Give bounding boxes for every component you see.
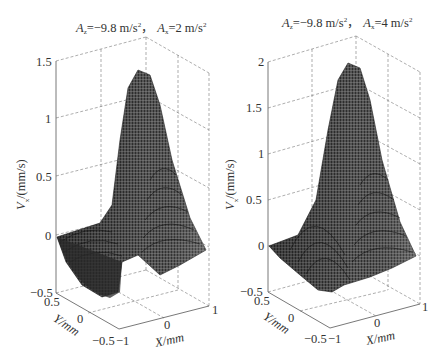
ztick: 0 [258, 239, 264, 254]
ytick: 0.5 [44, 295, 60, 310]
ztick: 1 [45, 112, 51, 127]
chart-left: Az=−9.8 m/s2， Ax=2 m/s2 [0, 0, 220, 364]
ytick: −0.5 [92, 334, 115, 349]
xtick: 0 [374, 316, 380, 331]
ztick: 1 [258, 147, 264, 162]
chart-left-plot [0, 0, 220, 364]
chart-right: Az=−9.8 m/s2， Ax=4 m/s2 [220, 0, 440, 364]
zlabel: Vx/(mm/s) [14, 159, 31, 210]
ytick: 0.5 [254, 294, 270, 309]
ztick: 0 [45, 229, 51, 244]
xtick: 1 [212, 303, 218, 318]
ztick: 1.5 [246, 101, 262, 116]
xtick: 0 [164, 318, 170, 333]
ztick: 1.5 [36, 55, 52, 70]
surface-right [269, 63, 416, 292]
xtick: −1 [328, 332, 341, 347]
ztick: 0.5 [246, 193, 262, 208]
surface-left [57, 70, 206, 298]
ztick: 2 [258, 55, 264, 70]
chart-right-plot [220, 0, 440, 364]
zlabel: Vx/(mm/s) [223, 159, 240, 210]
xtick: 1 [422, 300, 428, 315]
xtick: −1 [116, 334, 129, 349]
ztick: 0.5 [36, 170, 52, 185]
ytick: −0.5 [304, 332, 327, 347]
